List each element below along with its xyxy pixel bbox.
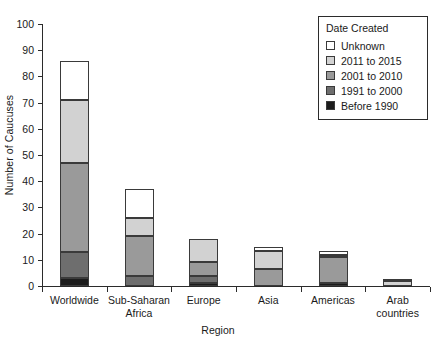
bar-segment[interactable] [60,278,89,286]
legend-item[interactable]: 1991 to 2000 [326,83,420,98]
bar-stack[interactable] [254,24,283,286]
bar-segment[interactable] [383,281,412,286]
chart-container: Number of Caucuses 010203040506070809010… [0,0,436,343]
legend-item[interactable]: Unknown [326,38,420,53]
legend-item-label: 2001 to 2010 [341,70,402,82]
bar-segment[interactable] [60,61,89,100]
bar-segment[interactable] [254,247,283,251]
legend-swatch-icon [326,86,335,95]
legend-title: Date Created [326,22,420,34]
y-tick-label: 50 [8,150,34,161]
bar-segment[interactable] [189,239,218,263]
y-tick-label: 0 [8,281,34,292]
legend: Date Created Unknown2011 to 20152001 to … [318,16,428,120]
bar-segment[interactable] [189,283,218,286]
legend-item[interactable]: 2011 to 2015 [326,53,420,68]
legend-item-label: 2011 to 2015 [341,55,402,67]
y-tick-label: 40 [8,176,34,187]
x-tick-label: Americas [301,294,366,307]
y-tick-label: 90 [8,45,34,56]
y-axis-line [42,24,43,287]
y-tick-label: 100 [8,19,34,30]
bar-segment[interactable] [125,276,154,286]
x-tick-mark [301,287,302,292]
legend-swatch-icon [326,71,335,80]
bar-segment[interactable] [125,236,154,275]
y-tick-label: 80 [8,71,34,82]
legend-swatch-icon [326,56,335,65]
bar-segment[interactable] [125,189,154,218]
x-axis-title: Region [0,324,436,336]
bar-segment[interactable] [60,100,89,163]
bar-segment[interactable] [319,257,348,283]
bar-segment[interactable] [189,276,218,284]
x-tick-mark [236,287,237,292]
y-tick-label: 30 [8,202,34,213]
legend-item-label: 1991 to 2000 [341,85,402,97]
x-tick-mark [365,287,366,292]
legend-item-label: Before 1990 [341,100,398,112]
x-tick-mark [171,287,172,292]
bar-segment[interactable] [319,255,348,258]
x-tick-mark [430,287,431,292]
y-tick-label: 70 [8,97,34,108]
bar-segment[interactable] [254,269,283,286]
bar-segment[interactable] [60,163,89,252]
bar-segment[interactable] [383,279,412,281]
legend-swatch-icon [326,41,335,50]
x-tick-label: Worldwide [42,294,107,307]
legend-items: Unknown2011 to 20152001 to 20101991 to 2… [326,38,420,113]
legend-swatch-icon [326,101,335,110]
x-tick-label: Arab countries [365,294,430,319]
bar-stack[interactable] [189,24,218,286]
x-tick-label: Sub-Saharan Africa [107,294,172,319]
x-tick-label: Asia [236,294,301,307]
legend-item[interactable]: 2001 to 2010 [326,68,420,83]
x-tick-mark [107,287,108,292]
x-tick-mark [42,287,43,292]
bar-segment[interactable] [60,252,89,278]
y-tick-label: 20 [8,228,34,239]
bar-segment[interactable] [319,251,348,255]
x-tick-label: Europe [171,294,236,307]
bar-segment[interactable] [125,218,154,236]
bar-segment[interactable] [189,262,218,275]
y-tick-label: 60 [8,124,34,135]
legend-item-label: Unknown [341,40,385,52]
bar-stack[interactable] [125,24,154,286]
bar-segment[interactable] [319,283,348,286]
bar-segment[interactable] [254,251,283,269]
x-axis-title-text: Region [201,324,234,336]
y-tick-label: 10 [8,255,34,266]
y-axis-title: Number of Caucuses [2,0,16,290]
bar-stack[interactable] [60,24,89,286]
legend-item[interactable]: Before 1990 [326,98,420,113]
